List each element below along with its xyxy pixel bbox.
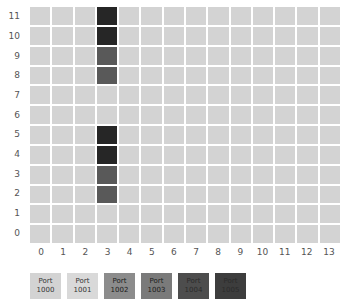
heatmap-cell-empty: [164, 205, 184, 223]
x-tick-label: 10: [251, 245, 273, 261]
heatmap-cell-empty: [75, 126, 95, 144]
heatmap-cell-empty: [208, 7, 228, 25]
heatmap-cell-empty: [231, 225, 251, 243]
x-tick-label: 9: [229, 245, 251, 261]
heatmap-cell-empty: [30, 86, 50, 104]
heatmap-cell-empty: [320, 126, 340, 144]
heatmap-cell-empty: [52, 7, 72, 25]
heatmap-cell-empty: [186, 205, 206, 223]
heatmap-cell-empty: [275, 186, 295, 204]
legend-item-label-line2: 1002: [111, 286, 129, 295]
heatmap-cell-empty: [52, 126, 72, 144]
heatmap-cell-empty: [30, 47, 50, 65]
y-tick-label: 0: [0, 223, 26, 243]
heatmap-cell-empty: [30, 106, 50, 124]
heatmap-cell-empty: [253, 27, 273, 45]
heatmap-cell-empty: [320, 146, 340, 164]
heatmap-cell-empty: [275, 126, 295, 144]
heatmap-cell-empty: [75, 186, 95, 204]
heatmap-cell-empty: [97, 205, 117, 223]
heatmap-cell-empty: [75, 146, 95, 164]
heatmap-cell-empty: [75, 166, 95, 184]
heatmap-cell-empty: [186, 47, 206, 65]
heatmap-cell-empty: [275, 86, 295, 104]
heatmap-cell-empty: [164, 146, 184, 164]
heatmap-cell-empty: [297, 225, 317, 243]
heatmap-cell-empty: [275, 205, 295, 223]
heatmap-cell-empty: [75, 86, 95, 104]
heatmap-cell-empty: [208, 47, 228, 65]
heatmap-cell-empty: [119, 205, 139, 223]
heatmap-cell-empty: [52, 166, 72, 184]
x-tick-label: 6: [163, 245, 185, 261]
legend-item[interactable]: Port1003: [141, 273, 172, 299]
y-tick-label: 11: [0, 7, 26, 27]
heatmap-cell-empty: [297, 186, 317, 204]
heatmap-cell-empty: [231, 186, 251, 204]
heatmap-cell-empty: [141, 106, 161, 124]
legend-item[interactable]: Port1002: [104, 273, 135, 299]
x-tick-label: 1: [52, 245, 74, 261]
heatmap-cell-empty: [208, 126, 228, 144]
heatmap-cell-empty: [320, 186, 340, 204]
heatmap-cell-empty: [208, 225, 228, 243]
heatmap-cell-empty: [75, 106, 95, 124]
legend-item[interactable]: Port1004: [178, 273, 209, 299]
heatmap-cell-empty: [164, 86, 184, 104]
x-tick-label: 4: [119, 245, 141, 261]
legend-item[interactable]: Port1000: [30, 273, 61, 299]
heatmap-cell-empty: [30, 27, 50, 45]
heatmap-cell-empty: [320, 205, 340, 223]
heatmap-cell-empty: [186, 86, 206, 104]
heatmap-cell-empty: [52, 146, 72, 164]
x-tick-label: 5: [141, 245, 163, 261]
heatmap-cell-empty: [119, 47, 139, 65]
legend-item-label-line2: 1000: [37, 286, 55, 295]
legend-item-label-line1: Port: [113, 277, 127, 286]
heatmap-cell-empty: [231, 146, 251, 164]
heatmap-cell-empty: [164, 7, 184, 25]
heatmap-cell-empty: [297, 7, 317, 25]
heatmap-cell-empty: [208, 166, 228, 184]
heatmap-cell-empty: [164, 106, 184, 124]
heatmap-cell-empty: [186, 106, 206, 124]
y-tick-label: 1: [0, 204, 26, 224]
heatmap-cell-empty: [164, 225, 184, 243]
y-axis: 11109876543210: [0, 7, 26, 243]
heatmap-cell-empty: [231, 27, 251, 45]
heatmap-cell-empty: [141, 27, 161, 45]
heatmap-cell-empty: [52, 47, 72, 65]
heatmap-cell-empty: [297, 205, 317, 223]
legend-item[interactable]: Port1005: [215, 273, 246, 299]
heatmap-cell-empty: [52, 67, 72, 85]
heatmap-cell-empty: [320, 166, 340, 184]
x-tick-label: 3: [96, 245, 118, 261]
legend-item-label-line1: Port: [39, 277, 53, 286]
heatmap-cell-empty: [186, 225, 206, 243]
x-tick-label: 7: [185, 245, 207, 261]
legend-item-label-line1: Port: [224, 277, 238, 286]
heatmap-cell-empty: [164, 126, 184, 144]
heatmap-cell-empty: [253, 67, 273, 85]
heatmap-cell-empty: [208, 86, 228, 104]
heatmap-cell-empty: [119, 86, 139, 104]
heatmap-cell-empty: [164, 27, 184, 45]
heatmap-cell-empty: [30, 67, 50, 85]
heatmap-cell-empty: [30, 225, 50, 243]
heatmap-cell-empty: [30, 7, 50, 25]
heatmap-cell-empty: [253, 126, 273, 144]
heatmap-cell-empty: [253, 225, 273, 243]
legend-item[interactable]: Port1001: [67, 273, 98, 299]
heatmap-cell-empty: [320, 106, 340, 124]
heatmap-cell-empty: [297, 47, 317, 65]
heatmap-cell-empty: [119, 146, 139, 164]
x-tick-label: 2: [74, 245, 96, 261]
heatmap-cell-empty: [164, 47, 184, 65]
heatmap-cell-empty: [186, 27, 206, 45]
heatmap-cell-empty: [297, 106, 317, 124]
heatmap-cell-empty: [253, 205, 273, 223]
heatmap-cell-empty: [119, 166, 139, 184]
heatmap-cell-empty: [186, 67, 206, 85]
heatmap-cell-empty: [231, 166, 251, 184]
heatmap-cell-filled: [97, 67, 117, 85]
